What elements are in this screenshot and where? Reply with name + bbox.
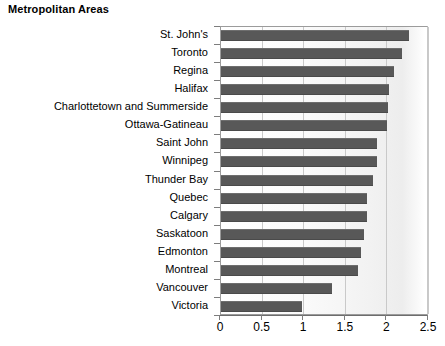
x-axis-tick — [302, 315, 303, 320]
bar-row — [221, 45, 427, 63]
bar — [221, 283, 332, 294]
y-axis-tick-label: Halifax — [174, 80, 208, 98]
y-axis-tick-label: Charlottetown and Summerside — [54, 98, 208, 116]
y-axis-tick — [214, 171, 220, 172]
bar-row — [221, 153, 427, 171]
x-axis-tick — [344, 315, 345, 320]
bar-row — [221, 172, 427, 190]
y-axis-tick — [214, 80, 220, 81]
x-axis-tick-label: 2.5 — [420, 320, 437, 334]
y-axis-tick-label: Victoria — [172, 297, 208, 315]
y-axis-tick — [214, 261, 220, 262]
x-axis-tick-label: 0.5 — [253, 320, 270, 334]
plot-area — [220, 26, 428, 315]
bar — [221, 156, 377, 167]
bar — [221, 229, 364, 240]
y-axis-tick — [214, 225, 220, 226]
bar — [221, 84, 389, 95]
bar-row — [221, 208, 427, 226]
bar — [221, 102, 388, 113]
y-axis-tick — [214, 62, 220, 63]
bar — [221, 30, 409, 41]
y-axis-tick — [214, 243, 220, 244]
x-axis-tick — [385, 315, 386, 320]
bar — [221, 211, 367, 222]
y-axis-tick-label: Regina — [173, 62, 208, 80]
x-axis-tick-label: 1.5 — [336, 320, 353, 334]
bar-row — [221, 262, 427, 280]
bar — [221, 48, 402, 59]
bar-row — [221, 190, 427, 208]
x-axis-tick — [219, 315, 220, 320]
bar — [221, 247, 361, 258]
y-axis-tick — [214, 279, 220, 280]
x-axis-tick — [261, 315, 262, 320]
y-axis-tick — [214, 297, 220, 298]
y-axis-tick-label: Montreal — [165, 261, 208, 279]
y-axis-category-labels: St. John'sTorontoReginaHalifaxCharlottet… — [0, 26, 214, 315]
bar — [221, 265, 358, 276]
y-axis-tick-label: Saskatoon — [156, 225, 208, 243]
y-axis-tick — [214, 207, 220, 208]
bar — [221, 301, 302, 312]
y-axis-tick-label: Saint John — [156, 134, 208, 152]
bar-row — [221, 244, 427, 262]
bar-row — [221, 117, 427, 135]
y-axis-tick — [214, 116, 220, 117]
y-axis-tick-label: Edmonton — [158, 243, 208, 261]
x-axis-tick — [427, 315, 428, 320]
y-axis-tick-label: Toronto — [171, 44, 208, 62]
x-axis-tick-label: 1 — [300, 320, 307, 334]
y-axis-tick-label: Vancouver — [156, 279, 208, 297]
bar-row — [221, 81, 427, 99]
x-axis-tick-label: 2 — [383, 320, 390, 334]
page-title: Metropolitan Areas — [8, 3, 109, 15]
bar-row — [221, 99, 427, 117]
y-axis-tick — [214, 44, 220, 45]
bar — [221, 66, 394, 77]
y-axis-tick — [214, 134, 220, 135]
y-axis-tick-label: St. John's — [160, 26, 208, 44]
bar-row — [221, 298, 427, 316]
x-axis-line — [220, 315, 428, 316]
y-axis-tick — [214, 26, 220, 27]
bar — [221, 138, 377, 149]
bar-row — [221, 280, 427, 298]
y-axis-tick — [214, 98, 220, 99]
y-axis-tick-label: Calgary — [170, 207, 208, 225]
bar-row — [221, 63, 427, 81]
bar — [221, 175, 373, 186]
gridline — [428, 27, 429, 314]
y-axis-tick — [214, 152, 220, 153]
x-axis-tick-label: 0 — [217, 320, 224, 334]
bar-row — [221, 135, 427, 153]
bar — [221, 193, 367, 204]
bar — [221, 120, 387, 131]
bar-row — [221, 27, 427, 45]
y-axis-tick-label: Ottawa-Gatineau — [125, 116, 208, 134]
y-axis-tick-label: Quebec — [169, 189, 208, 207]
y-axis-tick-label: Thunder Bay — [145, 171, 208, 189]
y-axis-tick-label: Winnipeg — [162, 152, 208, 170]
bar-row — [221, 226, 427, 244]
y-axis-tick — [214, 189, 220, 190]
